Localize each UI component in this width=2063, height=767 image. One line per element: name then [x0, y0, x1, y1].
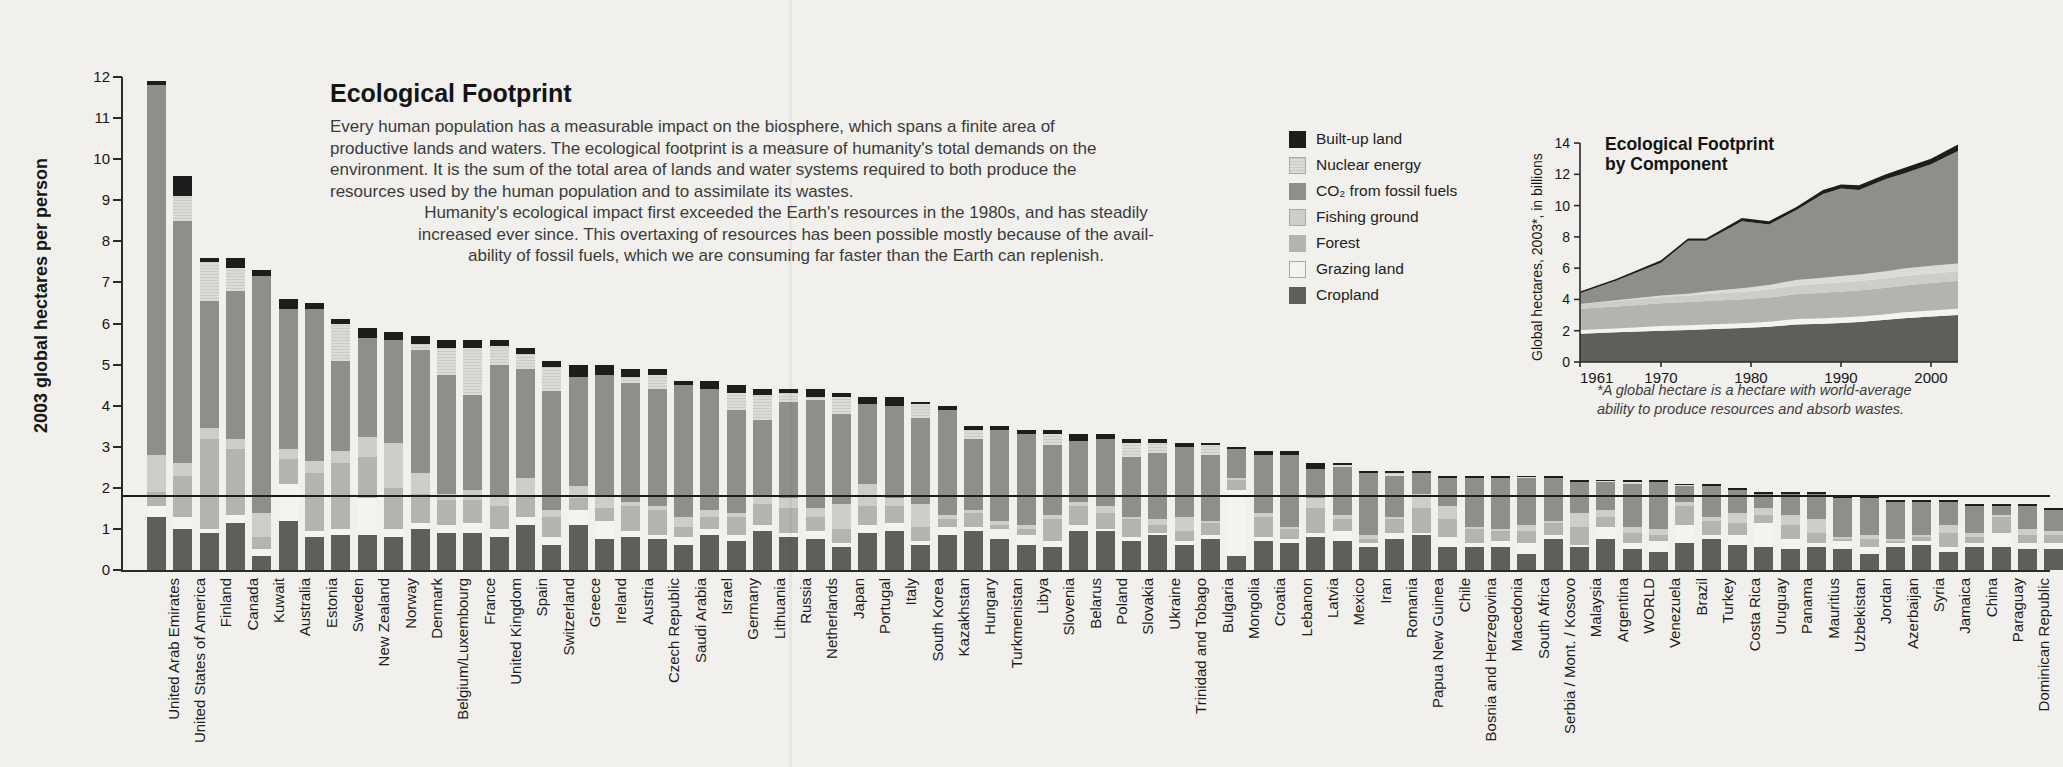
bar-segment-co2	[542, 391, 561, 510]
bar-segment-co2	[938, 410, 957, 515]
bar-segment-cropland	[674, 545, 693, 570]
bar-segment-cropland	[1359, 547, 1378, 570]
bar-segment-grazing	[1675, 525, 1694, 543]
bar-segment-nuclear	[173, 196, 192, 221]
bar-segment-grazing	[885, 523, 904, 531]
bar-segment-cropland	[1385, 539, 1404, 570]
bar-segment-builtup	[1912, 500, 1931, 502]
legend-swatch-nuclear	[1289, 157, 1306, 174]
inset-y-tick-label: 8	[1562, 229, 1570, 245]
bar-segment-cropland	[1965, 547, 1984, 570]
bar-segment-nuclear	[516, 354, 535, 368]
country-label: Mauritius	[1825, 578, 1842, 639]
bar-segment-grazing	[1359, 543, 1378, 547]
bar-segment-builtup	[727, 385, 746, 393]
country-label: South Africa	[1535, 578, 1552, 659]
bar-segment-nuclear	[200, 262, 219, 301]
bar-segment-builtup	[1965, 504, 1984, 506]
bar-segment-forest	[700, 517, 719, 529]
bar-segment-forest	[569, 498, 588, 510]
country-label: Ireland	[612, 578, 629, 624]
bar-segment-cropland	[1939, 552, 1958, 570]
bar-segment-fishing	[1570, 513, 1589, 527]
bar-segment-fishing	[1438, 506, 1457, 518]
country-label: Sweden	[349, 578, 366, 632]
bar-segment-nuclear	[964, 430, 983, 438]
bar-segment-fishing	[1754, 508, 1773, 514]
bar-segment-grazing	[331, 529, 350, 535]
bar-segment-cropland	[964, 531, 983, 570]
legend-swatch-grazing	[1289, 261, 1306, 278]
bar-segment-cropland	[1649, 552, 1668, 570]
bar-segment-forest	[1227, 480, 1246, 490]
bar-segment-fishing	[358, 437, 377, 458]
bar-segment-nuclear	[911, 404, 930, 418]
country-label: Lebanon	[1298, 578, 1315, 636]
legend-label: Nuclear energy	[1316, 156, 1421, 174]
bar-segment-grazing	[674, 537, 693, 545]
legend-item-co2: CO₂ from fossil fuels	[1289, 178, 1457, 204]
bar-segment-fishing	[1807, 519, 1826, 533]
bar-segment-co2	[1781, 494, 1800, 515]
country-label: France	[481, 578, 498, 625]
bar-segment-cropland	[1148, 535, 1167, 570]
bar-segment-fishing	[542, 510, 561, 516]
bar-segment-builtup	[1069, 434, 1088, 440]
bar-segment-nuclear	[1517, 476, 1536, 477]
country-label: Slovakia	[1139, 578, 1156, 635]
country-label: Turkmenistan	[1008, 578, 1025, 668]
y-tick-label: 3	[82, 438, 110, 455]
bar-segment-builtup	[648, 369, 667, 375]
bar-segment-fishing	[1623, 527, 1642, 533]
bar-segment-co2	[1122, 457, 1141, 517]
bar-segment-forest	[1833, 539, 1852, 541]
bar-segment-builtup	[569, 365, 588, 377]
bar-segment-grazing	[516, 517, 535, 525]
country-label: Chile	[1456, 578, 1473, 612]
bar-segment-builtup	[490, 340, 509, 346]
bar-segment-forest	[1096, 513, 1115, 529]
bar-segment-fishing	[252, 513, 271, 538]
bar-segment-builtup	[674, 381, 693, 385]
bar-segment-co2	[1412, 473, 1431, 494]
bar-segment-builtup	[1570, 480, 1589, 482]
bar-segment-forest	[2018, 535, 2037, 543]
bar-segment-fishing	[1675, 502, 1694, 506]
bar-segment-builtup	[938, 406, 957, 410]
bar-segment-builtup	[1175, 443, 1194, 447]
bar-segment-fishing	[331, 451, 350, 463]
bar-segment-cropland	[1754, 547, 1773, 570]
bar-segment-fishing	[832, 504, 851, 529]
y-tick-label: 2	[82, 479, 110, 496]
bar-segment-cropland	[1623, 549, 1642, 570]
bar-segment-forest	[1438, 519, 1457, 537]
bar-segment-cropland	[1833, 549, 1852, 570]
bar-segment-co2	[1912, 502, 1931, 535]
bar-segment-nuclear	[1043, 434, 1062, 444]
bar-segment-fishing	[990, 521, 1009, 525]
bar-segment-builtup	[305, 303, 324, 309]
bar-segment-grazing	[1306, 533, 1325, 537]
bar-segment-cropland	[173, 529, 192, 570]
bar-segment-nuclear	[490, 346, 509, 364]
bar-segment-nuclear	[463, 348, 482, 395]
bar-segment-forest	[1017, 529, 1036, 535]
bar-segment-grazing	[463, 523, 482, 533]
y-tick-label: 11	[82, 109, 110, 126]
country-label: Ukraine	[1166, 578, 1183, 630]
country-label: South Korea	[929, 578, 946, 661]
country-label: Macedonia	[1508, 578, 1525, 651]
bar-segment-grazing	[648, 535, 667, 539]
bar-segment-forest	[411, 494, 430, 523]
bar-segment-fishing	[1649, 529, 1668, 535]
bar-segment-forest	[1359, 539, 1378, 543]
bar-segment-nuclear	[437, 348, 456, 375]
inset-y-tick-label: 12	[1554, 166, 1570, 182]
country-label: Poland	[1113, 578, 1130, 625]
bar-segment-forest	[858, 506, 877, 524]
bar-segment-co2	[1359, 473, 1378, 535]
bar-segment-fishing	[1491, 529, 1510, 531]
bar-segment-fishing	[1069, 502, 1088, 506]
bar-segment-forest	[674, 527, 693, 537]
bar-segment-forest	[1886, 541, 1905, 543]
